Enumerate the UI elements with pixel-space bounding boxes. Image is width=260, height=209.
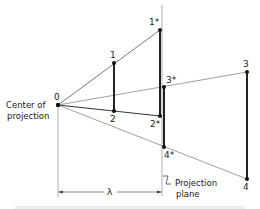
lambda-arrow-left <box>58 191 63 194</box>
label-0: 0 <box>54 92 60 102</box>
label-4: 4 <box>243 182 249 192</box>
label-3: 3 <box>243 59 249 69</box>
point-1 <box>112 61 116 65</box>
projection-plane-leader <box>163 176 171 184</box>
label-3s: 3* <box>166 75 177 85</box>
center-of-projection-label-1: Center of <box>6 100 47 110</box>
point-1s <box>158 28 162 32</box>
ray-to-1 <box>58 30 160 105</box>
lambda-label: λ <box>107 187 113 197</box>
label-4s: 4* <box>164 150 175 160</box>
ray-to-2 <box>58 105 160 116</box>
lambda-arrow-right <box>157 191 162 194</box>
point-0 <box>56 103 60 107</box>
label-1: 1 <box>110 50 116 60</box>
point-3s <box>162 85 166 89</box>
label-1s: 1* <box>149 17 160 27</box>
point-4s <box>162 145 166 149</box>
caption-fade <box>15 206 245 209</box>
point-4 <box>245 177 249 181</box>
ray-to-3 <box>58 72 247 105</box>
ray-to-4 <box>58 105 247 179</box>
point-2 <box>112 109 116 113</box>
center-of-projection-label-2: projection <box>7 111 49 121</box>
point-2s <box>158 114 162 118</box>
label-2: 2 <box>110 114 116 124</box>
label-2s: 2* <box>150 119 161 129</box>
point-3 <box>245 70 249 74</box>
perspective-projection-diagram: 0 1 2 1* 2* 3* 4* 3 4 Center of projecti… <box>0 0 260 209</box>
projection-plane-label-2: plane <box>176 189 200 199</box>
projection-plane-label-1: Projection <box>175 178 217 188</box>
